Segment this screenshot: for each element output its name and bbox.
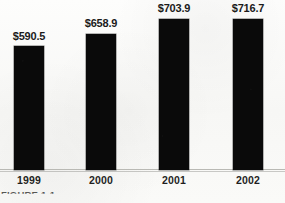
category-label-1999: 1999 — [4, 174, 54, 186]
bar-2001 — [159, 19, 189, 170]
plot-area: $590.5 1999 $658.9 2000 $703.9 2001 $716… — [0, 0, 285, 171]
figure-caption-text: FIGURE 1-1 — [1, 192, 55, 200]
x-axis-line-shadow — [0, 171, 285, 172]
bar-value-2002: $716.7 — [223, 2, 273, 14]
category-label-2000: 2000 — [76, 174, 126, 186]
bar-1999 — [14, 46, 44, 170]
category-label-2002: 2002 — [223, 174, 273, 186]
bar-2000 — [86, 34, 116, 170]
bar-value-2001: $703.9 — [149, 2, 199, 14]
bar-2002 — [233, 19, 263, 170]
category-label-2001: 2001 — [149, 174, 199, 186]
bar-value-1999: $590.5 — [4, 30, 54, 42]
figure-caption-clipped: FIGURE 1-1 — [0, 192, 285, 203]
bar-chart-figure: $590.5 1999 $658.9 2000 $703.9 2001 $716… — [0, 0, 285, 203]
bar-value-2000: $658.9 — [76, 17, 126, 29]
